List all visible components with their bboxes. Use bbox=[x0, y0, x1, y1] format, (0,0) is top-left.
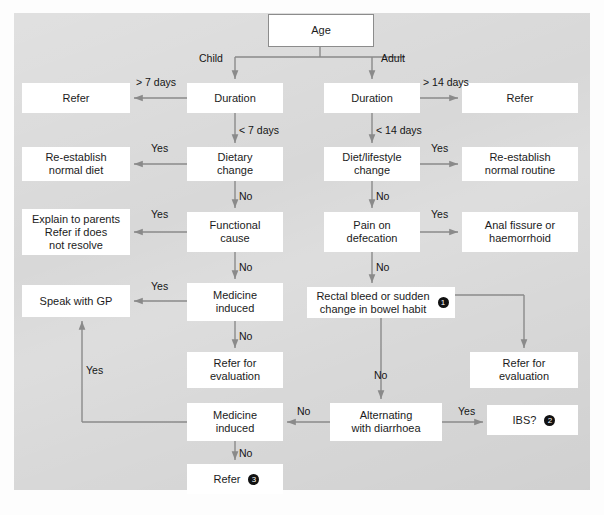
footnote-marker-1-icon: 1 bbox=[438, 297, 449, 308]
edge-label-no_medicine1: No bbox=[239, 330, 252, 342]
node-label-dietary_change: Dietarychange bbox=[214, 151, 256, 177]
node-dietary_change[interactable]: Dietarychange bbox=[187, 147, 283, 181]
node-label-alternating_diarrhoea: Alternatingwith diarrhoea bbox=[348, 409, 423, 435]
edge-label-no_diet_adult: No bbox=[376, 190, 389, 202]
node-medicine_induced_1[interactable]: Medicineinduced bbox=[187, 283, 283, 321]
edge-label-yes_diet_adult: Yes bbox=[431, 142, 448, 154]
node-refer_eval_right[interactable]: Refer forevaluation bbox=[470, 352, 578, 388]
node-ibs[interactable]: IBS?2 bbox=[487, 405, 578, 435]
node-functional_cause[interactable]: Functionalcause bbox=[187, 212, 283, 252]
node-label-diet_lifestyle: Diet/lifestylechange bbox=[339, 151, 404, 177]
node-label-reestablish_routine: Re-establishnormal routine bbox=[482, 151, 558, 177]
node-alternating_diarrhoea[interactable]: Alternatingwith diarrhoea bbox=[330, 403, 442, 441]
node-refer_final[interactable]: Refer3 bbox=[187, 464, 283, 494]
node-label-reestablish_diet: Re-establishnormal diet bbox=[42, 151, 109, 177]
node-label-ibs: IBS? bbox=[510, 414, 540, 427]
node-label-medicine_induced_2: Medicineinduced bbox=[210, 409, 260, 435]
node-reestablish_diet[interactable]: Re-establishnormal diet bbox=[22, 147, 130, 181]
edge-label-yes_long: Yes bbox=[86, 364, 103, 376]
edge-label-child: Child bbox=[199, 52, 223, 64]
edge-label-no_functional: No bbox=[239, 261, 252, 273]
node-label-age: Age bbox=[308, 24, 334, 37]
node-label-pain_defecation: Pain ondefecation bbox=[344, 219, 401, 245]
node-label-rectal_bleed: Rectal bleed or suddenchange in bowel ha… bbox=[313, 290, 432, 316]
edge-label-no_alternating: No bbox=[297, 405, 310, 417]
edge-label-no_rectal: No bbox=[374, 369, 387, 381]
edge-label-lt14days: < 14 days bbox=[376, 124, 422, 136]
node-label-duration_child: Duration bbox=[211, 92, 259, 105]
node-medicine_induced_2[interactable]: Medicineinduced bbox=[187, 403, 283, 441]
node-explain_parents[interactable]: Explain to parentsRefer if doesnot resol… bbox=[22, 209, 130, 255]
node-age[interactable]: Age bbox=[268, 14, 374, 47]
figure-root: AgeReferDurationDurationReferRe-establis… bbox=[0, 0, 604, 515]
node-speak_gp[interactable]: Speak with GP bbox=[22, 285, 130, 317]
figure-caption bbox=[36, 502, 576, 513]
edge-label-lt7days: < 7 days bbox=[239, 124, 279, 136]
node-duration_child[interactable]: Duration bbox=[187, 83, 283, 113]
node-duration_adult[interactable]: Duration bbox=[324, 83, 420, 113]
edge-label-no_medicine2: No bbox=[239, 447, 252, 459]
node-label-refer_adult: Refer bbox=[504, 92, 537, 105]
footnote-marker-3-icon: 3 bbox=[248, 474, 259, 485]
node-label-explain_parents: Explain to parentsRefer if doesnot resol… bbox=[29, 213, 123, 252]
edge-label-yes_alternating: Yes bbox=[458, 405, 475, 417]
node-label-refer_eval_right: Refer forevaluation bbox=[496, 357, 552, 383]
edge-label-yes_pain: Yes bbox=[431, 208, 448, 220]
edge-label-adult: Adult bbox=[381, 52, 405, 64]
flowchart-connectors bbox=[0, 0, 604, 515]
node-label-anal_fissure: Anal fissure orhaemorrhoid bbox=[482, 219, 558, 245]
edge-label-gt14days: > 14 days bbox=[423, 76, 469, 88]
node-refer_eval_left[interactable]: Refer forevaluation bbox=[187, 352, 283, 388]
node-label-refer_final: Refer bbox=[211, 473, 244, 486]
footnote-marker-2-icon: 2 bbox=[544, 415, 555, 426]
edge-label-no_diet_child: No bbox=[239, 190, 252, 202]
node-label-refer_eval_left: Refer forevaluation bbox=[207, 357, 263, 383]
node-pain_defecation[interactable]: Pain ondefecation bbox=[324, 212, 420, 252]
edge-label-yes_medicine1: Yes bbox=[151, 280, 168, 292]
node-label-refer_child: Refer bbox=[60, 92, 93, 105]
node-rectal_bleed[interactable]: Rectal bleed or suddenchange in bowel ha… bbox=[307, 287, 455, 318]
edge-label-gt7days: > 7 days bbox=[136, 76, 176, 88]
node-diet_lifestyle[interactable]: Diet/lifestylechange bbox=[324, 147, 420, 181]
node-label-duration_adult: Duration bbox=[348, 92, 396, 105]
edge-label-yes_diet_child: Yes bbox=[151, 142, 168, 154]
node-anal_fissure[interactable]: Anal fissure orhaemorrhoid bbox=[462, 212, 578, 252]
node-label-medicine_induced_1: Medicineinduced bbox=[210, 289, 260, 315]
edge-label-yes_functional: Yes bbox=[151, 208, 168, 220]
node-refer_adult[interactable]: Refer bbox=[462, 83, 578, 113]
node-label-functional_cause: Functionalcause bbox=[207, 219, 264, 245]
edge-label-no_pain: No bbox=[376, 261, 389, 273]
node-refer_child[interactable]: Refer bbox=[22, 83, 130, 113]
node-reestablish_routine[interactable]: Re-establishnormal routine bbox=[462, 147, 578, 181]
node-label-speak_gp: Speak with GP bbox=[37, 295, 116, 308]
